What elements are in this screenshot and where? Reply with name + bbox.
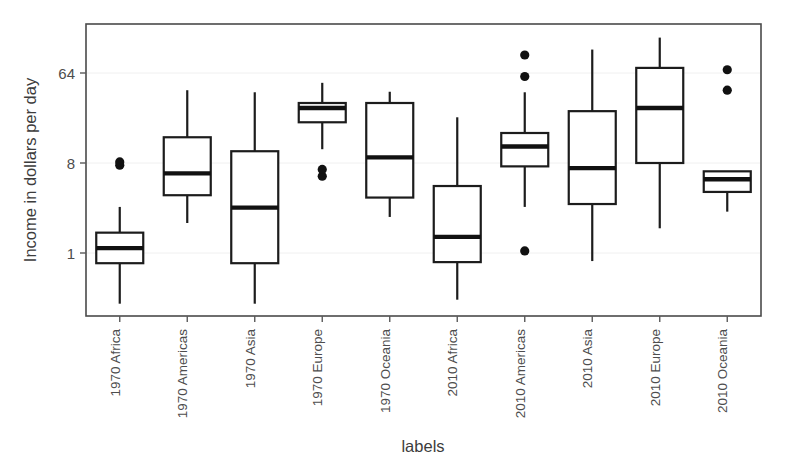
x-tick-label: 1970 Americas: [175, 329, 190, 419]
box-iqr: [434, 186, 481, 262]
x-tick-label: 2010 Oceania: [715, 329, 730, 414]
boxplot-box: [96, 157, 143, 303]
box-iqr: [636, 68, 683, 163]
outlier-point: [520, 72, 529, 81]
x-axis-tick-labels: 1970 Africa1970 Americas1970 Asia1970 Eu…: [108, 329, 731, 419]
x-tick-label: 1970 Asia: [243, 329, 258, 389]
y-axis-title: Income in dollars per day: [21, 77, 39, 262]
outlier-point: [318, 165, 327, 174]
x-tick-label: 1970 Oceania: [378, 329, 393, 414]
x-axis-title: labels: [401, 437, 444, 455]
box-iqr: [501, 133, 548, 166]
x-tick-label: 2010 Europe: [648, 329, 663, 406]
boxplot-box: [231, 92, 278, 303]
x-tick-label: 2010 Americas: [513, 329, 528, 419]
x-axis-ticks: [120, 316, 728, 322]
chart-canvas: 1864 1970 Africa1970 Americas1970 Asia19…: [0, 0, 796, 465]
box-iqr: [164, 137, 211, 195]
box-iqr: [569, 111, 616, 204]
boxplot-chart: 1864 1970 Africa1970 Americas1970 Asia19…: [0, 0, 796, 465]
box-iqr: [704, 171, 751, 192]
x-tick-label: 1970 Africa: [108, 329, 123, 397]
outlier-point: [520, 246, 529, 255]
outlier-point: [723, 65, 732, 74]
y-tick-label: 8: [67, 155, 75, 172]
boxplot-box: [704, 65, 751, 212]
boxplot-box: [434, 117, 481, 299]
boxplot-box: [569, 50, 616, 262]
x-tick-label: 2010 Asia: [580, 329, 595, 389]
boxplot-box: [299, 83, 346, 181]
x-tick-label: 1970 Europe: [310, 329, 325, 406]
y-tick-label: 1: [67, 245, 75, 262]
box-iqr: [366, 103, 413, 198]
outlier-point: [115, 157, 124, 166]
x-tick-label: 2010 Africa: [445, 329, 460, 397]
outlier-point: [723, 86, 732, 95]
y-tick-label: 64: [58, 65, 75, 82]
boxplot-box: [501, 50, 548, 255]
outlier-point: [520, 50, 529, 59]
boxplot-series: [96, 38, 751, 304]
boxplot-box: [164, 90, 211, 223]
y-axis-ticks: 1864: [58, 65, 86, 262]
boxplot-box: [636, 38, 683, 229]
boxplot-box: [366, 92, 413, 217]
